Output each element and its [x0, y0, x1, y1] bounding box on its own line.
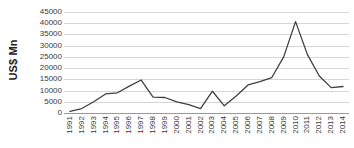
y-axis-tick-label: 15000 — [24, 75, 62, 83]
plot-area — [64, 12, 349, 113]
x-axis-tick-labels: 1991199219931994199519961997199819992000… — [64, 114, 349, 148]
y-axis-tick-label: 10000 — [24, 87, 62, 95]
y-axis-tick-labels: 0500010000150002000025000300003500040000… — [24, 7, 62, 115]
y-axis-tick-label: 5000 — [24, 98, 62, 106]
x-axis-tick-label: 2014 — [326, 114, 354, 148]
y-axis-tick-label: 20000 — [24, 64, 62, 72]
y-axis-tick-label: 35000 — [24, 30, 62, 38]
line-chart: US$ Mn 050001000015000200002500030000350… — [0, 0, 354, 148]
y-axis-title: US$ Mn — [0, 0, 26, 120]
y-axis-tick-label: 30000 — [24, 42, 62, 50]
series-line-us-dollar-mn — [70, 22, 343, 112]
y-axis-title-label: US$ Mn — [7, 40, 19, 81]
y-axis-tick-label: 25000 — [24, 53, 62, 61]
x-axis-tick-text: 2014 — [339, 116, 347, 134]
series-line-layer — [64, 12, 349, 113]
y-axis-tick-label: 45000 — [24, 8, 62, 16]
y-axis-tick-label: 40000 — [24, 19, 62, 27]
